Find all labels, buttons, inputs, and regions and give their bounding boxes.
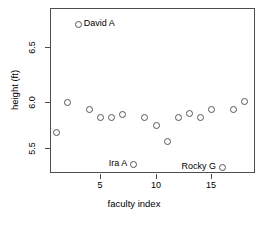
data-point-label: Ira A bbox=[109, 159, 128, 168]
x-tick-label-5: 5 bbox=[90, 181, 110, 190]
x-tick-label-10: 10 bbox=[146, 181, 166, 190]
x-tick-mark-10 bbox=[156, 174, 157, 179]
x-tick-label-15: 15 bbox=[201, 181, 221, 190]
data-point bbox=[53, 129, 60, 136]
y-tick-mark-6.0 bbox=[45, 102, 50, 103]
data-point bbox=[75, 21, 82, 28]
y-tick-mark-6.5 bbox=[45, 47, 50, 48]
data-point-label: David A bbox=[84, 19, 115, 28]
x-tick-mark-5 bbox=[100, 174, 101, 179]
y-tick-label-6.5: 6.5 bbox=[28, 37, 37, 59]
data-point bbox=[64, 99, 71, 106]
x-tick-mark-15 bbox=[211, 174, 212, 179]
data-point-label: Rocky G bbox=[182, 162, 217, 171]
data-point bbox=[164, 138, 171, 145]
data-point bbox=[153, 122, 160, 129]
data-point bbox=[197, 114, 204, 121]
x-axis-title: faculty index bbox=[0, 199, 268, 209]
data-point bbox=[108, 114, 115, 121]
data-point bbox=[130, 161, 137, 168]
y-tick-mark-5.5 bbox=[45, 148, 50, 149]
y-tick-label-5.5: 5.5 bbox=[28, 138, 37, 160]
data-point bbox=[175, 114, 182, 121]
data-point bbox=[186, 110, 193, 117]
y-axis-title: height (ft) bbox=[10, 55, 20, 125]
scatter-plot: 6.5 6.0 5.5 5 10 15 faculty index height… bbox=[0, 0, 268, 226]
plot-area-border bbox=[50, 8, 255, 173]
data-point bbox=[97, 114, 104, 121]
y-tick-label-6.0: 6.0 bbox=[28, 92, 37, 114]
